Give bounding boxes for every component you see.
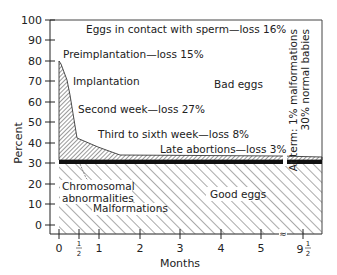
x-tick-half-den: 2 bbox=[77, 250, 81, 258]
x-axis-label: Months bbox=[160, 257, 200, 270]
y-tick-40: 40 bbox=[28, 137, 42, 150]
y-tick-90: 90 bbox=[28, 34, 42, 47]
annotation-preimplantation: Preimplantation—loss 15% bbox=[63, 48, 204, 60]
x-tick-9-num: 1 bbox=[306, 240, 310, 248]
annotation-second-week: Second week—loss 27% bbox=[78, 103, 205, 115]
y-tick-0: 0 bbox=[35, 219, 42, 232]
annotation-third-sixth-week: Third to sixth week—loss 8% bbox=[97, 128, 249, 140]
annotation-good-eggs: Good eggs bbox=[210, 188, 266, 200]
y-tick-100: 100 bbox=[21, 14, 42, 27]
y-tick-10: 10 bbox=[28, 198, 42, 211]
x-tick-half-num: 1 bbox=[77, 240, 81, 248]
annotation-at-term-2: 30% normal babies bbox=[299, 29, 311, 130]
y-tick-30: 30 bbox=[28, 157, 42, 170]
annotation-implantation: Implantation bbox=[73, 75, 140, 87]
x-tick-3: 3 bbox=[177, 242, 184, 255]
annotation-chromosomal: Chromosomal bbox=[62, 180, 135, 192]
annotation-eggs-contact: Eggs in contact with sperm—loss 16% bbox=[86, 23, 286, 35]
x-tick-9-whole: 9 bbox=[297, 243, 304, 256]
x-tick-1: 1 bbox=[96, 242, 103, 255]
y-tick-70: 70 bbox=[28, 75, 42, 88]
y-axis-label: Percent bbox=[12, 122, 25, 164]
y-tick-80: 80 bbox=[28, 55, 42, 68]
x-tick-0: 0 bbox=[56, 242, 63, 255]
x-tick-9-den: 2 bbox=[306, 250, 310, 258]
annotation-malformations: Malformations bbox=[93, 202, 168, 214]
y-tick-60: 60 bbox=[28, 96, 42, 109]
x-tick-5: 5 bbox=[258, 242, 265, 255]
x-tick-2: 2 bbox=[137, 242, 144, 255]
thirty-percent-bar bbox=[59, 160, 322, 164]
annotation-bad-eggs: Bad eggs bbox=[214, 78, 263, 90]
chart-svg: 100 90 80 70 60 50 40 30 20 10 0 Percent… bbox=[0, 0, 337, 275]
y-tick-50: 50 bbox=[28, 116, 42, 129]
chart: 100 90 80 70 60 50 40 30 20 10 0 Percent… bbox=[0, 0, 337, 275]
annotation-at-term-1: At term: 1% malformations bbox=[287, 29, 299, 171]
axis-break-mark: ≈ bbox=[279, 229, 287, 239]
y-tick-20: 20 bbox=[28, 178, 42, 191]
x-tick-4: 4 bbox=[218, 242, 225, 255]
annotation-late-abortions: Late abortions—loss 3% bbox=[160, 143, 286, 155]
